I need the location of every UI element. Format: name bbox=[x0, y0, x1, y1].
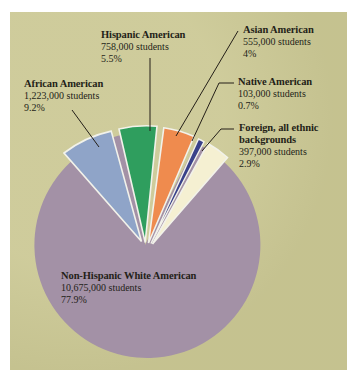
label-hispanic-american: Hispanic American 758,000 students 5.5% bbox=[101, 29, 185, 64]
label-native-american: Native American 103,000 students 0.7% bbox=[238, 76, 312, 111]
label-asian-american-percent: 4% bbox=[243, 48, 314, 60]
label-native-american-title: Native American bbox=[238, 76, 312, 88]
label-non-hispanic-white-american-count: 10,675,000 students bbox=[61, 282, 196, 294]
label-non-hispanic-white-american-percent: 77.9% bbox=[61, 294, 196, 306]
label-non-hispanic-white-american-title: Non-Hispanic White American bbox=[61, 270, 196, 282]
label-native-american-percent: 0.7% bbox=[238, 100, 312, 112]
label-african-american-percent: 9.2% bbox=[24, 102, 103, 114]
leader-line-native-american bbox=[192, 83, 234, 141]
label-native-american-count: 103,000 students bbox=[238, 88, 312, 100]
label-african-american: African American 1,223,000 students 9.2% bbox=[24, 78, 103, 113]
label-asian-american-count: 555,000 students bbox=[243, 36, 314, 48]
label-asian-american-title: Asian American bbox=[243, 24, 314, 36]
label-foreign-title-line-1: Foreign, all ethnic bbox=[239, 122, 341, 134]
label-foreign-title-line-2: backgrounds bbox=[239, 134, 341, 146]
label-african-american-count: 1,223,000 students bbox=[24, 90, 103, 102]
label-hispanic-american-count: 758,000 students bbox=[101, 41, 185, 53]
label-non-hispanic-white-american: Non-Hispanic White American 10,675,000 s… bbox=[61, 270, 196, 305]
label-asian-american: Asian American 555,000 students 4% bbox=[243, 24, 314, 59]
figure-root: African American 1,223,000 students 9.2%… bbox=[0, 0, 356, 386]
label-hispanic-american-percent: 5.5% bbox=[101, 53, 185, 65]
label-foreign: Foreign, all ethnic backgrounds 397,000 … bbox=[239, 122, 341, 170]
label-foreign-count: 397,000 students bbox=[239, 146, 341, 158]
label-african-american-title: African American bbox=[24, 78, 103, 90]
label-foreign-percent: 2.9% bbox=[239, 158, 341, 170]
label-hispanic-american-title: Hispanic American bbox=[101, 29, 185, 41]
